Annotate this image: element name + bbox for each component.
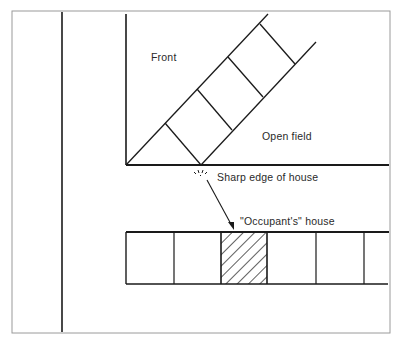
figure-frame — [12, 11, 390, 333]
diagram-canvas — [0, 0, 401, 345]
sharp-edge-burst-icon — [194, 170, 207, 176]
houses-row — [126, 232, 389, 284]
label-open-field: Open field — [262, 130, 312, 142]
label-occupants-house: "Occupant's" house — [240, 215, 335, 227]
label-sharp-edge: Sharp edge of house — [217, 171, 318, 183]
diagonal-houses — [126, 14, 316, 165]
hatched-occupants-house — [221, 232, 267, 284]
label-front: Front — [151, 51, 177, 63]
arrow-to-occupants-house — [207, 180, 234, 230]
